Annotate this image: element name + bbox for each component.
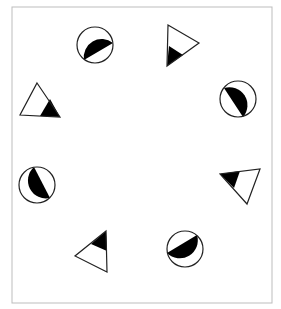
circle-left — [19, 167, 55, 203]
figure-canvas — [0, 0, 281, 309]
circle-right — [220, 81, 256, 117]
frame-border — [12, 7, 272, 303]
circle-bottom-right — [167, 231, 203, 267]
circle-top-left — [77, 27, 113, 63]
